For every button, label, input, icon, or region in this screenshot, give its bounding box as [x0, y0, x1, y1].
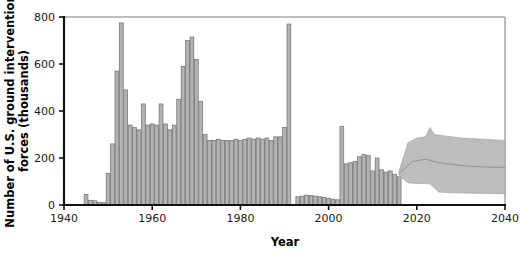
y-tick-labels: 0200400600800: [34, 11, 55, 212]
y-axis-title-line1: Number of U.S. ground intervention: [3, 0, 17, 228]
bar: [230, 140, 234, 205]
bar: [283, 127, 287, 205]
bar: [247, 138, 251, 205]
bar: [155, 125, 159, 205]
bar: [203, 135, 207, 206]
bar: [181, 66, 185, 205]
bar: [269, 140, 273, 205]
bar: [384, 172, 388, 205]
x-tick-labels: 194019601980200020202040: [50, 212, 519, 225]
bar: [190, 37, 194, 205]
bar: [186, 41, 190, 206]
x-tick-label: 2040: [491, 212, 519, 225]
bar: [216, 139, 220, 205]
x-tick-label: 2000: [315, 212, 343, 225]
bar: [194, 59, 198, 205]
bar: [119, 23, 123, 205]
projection-band-group: [399, 127, 505, 193]
chart-canvas: 0200400600800 194019601980200020202040 Y…: [0, 0, 522, 254]
bar: [172, 125, 176, 205]
y-tick-label: 600: [34, 58, 55, 71]
bar: [313, 196, 317, 205]
bar: [137, 130, 141, 205]
bar: [349, 163, 353, 205]
bar: [265, 138, 269, 205]
bar: [309, 196, 313, 205]
bar: [84, 194, 88, 205]
y-tick-label: 0: [48, 199, 55, 212]
bar: [340, 126, 344, 205]
bar: [225, 140, 229, 205]
y-axis-title-line2: forces (thousands): [17, 50, 31, 172]
bar: [239, 140, 243, 205]
y-tick-label: 400: [34, 105, 55, 118]
projection-band: [399, 127, 505, 193]
bar: [305, 195, 309, 205]
x-tick-label: 1940: [50, 212, 78, 225]
bar: [168, 130, 172, 205]
bar: [221, 140, 225, 205]
bar: [366, 156, 370, 205]
bar: [208, 140, 212, 205]
bar: [115, 71, 119, 205]
bar: [318, 197, 322, 205]
x-axis-title: Year: [270, 235, 300, 249]
bar: [106, 173, 110, 205]
bar: [177, 99, 181, 205]
chart-figure: 0200400600800 194019601980200020202040 Y…: [0, 0, 522, 254]
bar: [287, 24, 291, 205]
bar: [274, 137, 278, 205]
bar: [344, 164, 348, 205]
bar: [300, 196, 304, 205]
bar: [150, 124, 154, 205]
bar: [128, 125, 132, 205]
bar: [397, 177, 401, 205]
bar: [380, 170, 384, 205]
bar: [278, 137, 282, 205]
bar: [296, 197, 300, 205]
bar: [353, 162, 357, 205]
x-tick-label: 1980: [226, 212, 254, 225]
bar: [212, 140, 216, 205]
bars-group: [84, 23, 401, 205]
bar: [393, 174, 397, 205]
bar: [388, 171, 392, 205]
bar: [375, 158, 379, 205]
bar: [358, 157, 362, 205]
y-tick-label: 800: [34, 11, 55, 24]
bar: [243, 139, 247, 205]
bar: [252, 139, 256, 205]
y-axis-title-group: Number of U.S. ground intervention force…: [3, 0, 31, 228]
bar: [199, 102, 203, 205]
bar: [124, 90, 128, 205]
bar: [141, 104, 145, 205]
bar: [261, 139, 265, 205]
x-tick-label: 1960: [138, 212, 166, 225]
bar: [133, 127, 137, 205]
bar: [371, 171, 375, 205]
y-tick-label: 200: [34, 152, 55, 165]
bar: [256, 138, 260, 205]
bar: [362, 154, 366, 205]
bar: [322, 197, 326, 205]
bar: [234, 139, 238, 205]
bar: [159, 104, 163, 205]
x-tick-label: 2020: [403, 212, 431, 225]
bar: [146, 125, 150, 205]
bar: [164, 124, 168, 205]
bar: [111, 144, 115, 205]
